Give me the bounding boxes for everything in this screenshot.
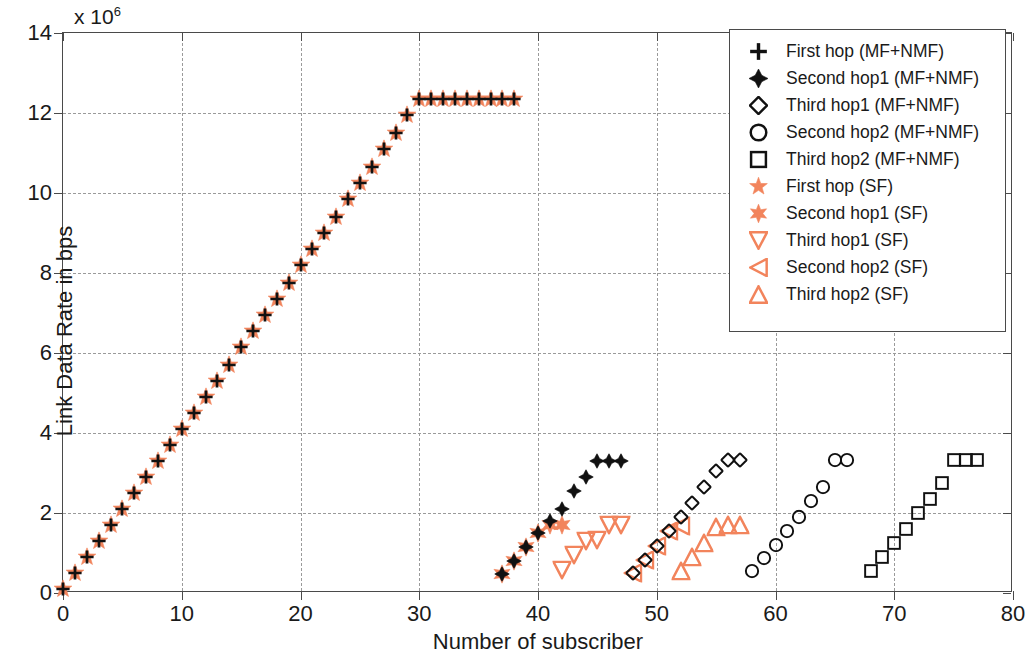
data-point-plus <box>471 92 486 111</box>
data-point-plus <box>210 374 225 393</box>
gridline-vertical <box>419 33 420 591</box>
data-point-diamond <box>697 480 712 499</box>
legend-label: Third hop1 (SF) <box>786 230 909 251</box>
legend-item[interactable]: Third hop1 (SF) <box>730 227 1005 254</box>
data-point-plus <box>127 486 142 505</box>
data-point-star6 <box>517 538 536 561</box>
data-point-tri-down <box>564 546 583 569</box>
data-point-square <box>970 452 985 471</box>
data-point-plus <box>400 108 415 127</box>
legend-label: Second hop2 (SF) <box>786 257 928 278</box>
data-point-tri-down <box>612 516 631 539</box>
data-point-plus <box>305 242 320 261</box>
x-tick-top <box>1013 33 1014 41</box>
x-tick-label: 10 <box>170 601 194 627</box>
x-tick-top <box>63 33 64 41</box>
data-point-star5 <box>255 306 274 329</box>
data-point-star5 <box>77 548 96 571</box>
data-point-square <box>958 452 973 471</box>
legend-label: First hop (SF) <box>786 176 893 197</box>
data-point-circle <box>839 452 854 471</box>
gridline-horizontal <box>63 433 1011 434</box>
gridline-vertical <box>657 33 658 591</box>
y-tick-label: 8 <box>40 260 52 286</box>
data-point-diamond <box>732 452 747 471</box>
data-point-tri-left <box>659 522 678 545</box>
gridline-horizontal <box>63 353 1011 354</box>
data-point-tri-down <box>576 532 595 555</box>
x-tick-top <box>657 33 658 41</box>
data-point-star5 <box>137 468 156 491</box>
legend: First hop (MF+NMF)Second hop1 (MF+NMF)Th… <box>729 29 1006 332</box>
x-axis-title: Number of subscriber <box>63 629 1013 653</box>
data-point-plus <box>139 470 154 489</box>
data-point-star5 <box>101 516 120 539</box>
legend-label: Third hop2 (MF+NMF) <box>786 149 960 170</box>
legend-marker-fourstar-icon <box>730 69 786 88</box>
chart-root: x 106 0246810121401020304050607080 Numbe… <box>0 0 1028 653</box>
data-point-plus <box>151 454 166 473</box>
legend-marker-star6-icon <box>730 204 786 223</box>
data-point-plus <box>459 92 474 111</box>
data-point-tri-up <box>683 548 702 571</box>
data-point-diamond <box>626 566 641 585</box>
y-tick-label: 14 <box>28 20 52 46</box>
data-point-plus <box>281 276 296 295</box>
legend-marker-tri-left-icon <box>730 258 786 277</box>
x-tick <box>182 591 183 600</box>
gridline-vertical <box>301 33 302 591</box>
data-point-star5 <box>220 356 239 379</box>
data-point-star5 <box>303 240 322 263</box>
data-point-star5 <box>362 158 381 181</box>
data-point-square <box>922 492 937 511</box>
data-point-star5 <box>232 338 251 361</box>
x-tick <box>657 591 658 600</box>
x-tick-top <box>538 33 539 41</box>
data-point-star5 <box>315 224 334 247</box>
legend-item[interactable]: Second hop1 (MF+NMF) <box>730 65 1005 92</box>
data-point-plus <box>269 292 284 311</box>
y-tick-right <box>1003 433 1011 434</box>
data-point-plus <box>436 92 451 111</box>
data-point-fourstar <box>602 454 617 473</box>
legend-item[interactable]: First hop (SF) <box>730 173 1005 200</box>
data-point-star6 <box>540 516 559 539</box>
legend-label: Third hop1 (MF+NMF) <box>786 95 960 116</box>
data-point-plus <box>352 176 367 195</box>
legend-item[interactable]: Second hop2 (MF+NMF) <box>730 119 1005 146</box>
data-point-plus <box>103 518 118 537</box>
x-tick-label: 40 <box>526 601 550 627</box>
data-point-diamond <box>661 524 676 543</box>
data-point-star5 <box>422 90 441 113</box>
legend-item[interactable]: First hop (MF+NMF) <box>730 38 1005 65</box>
legend-item[interactable]: Second hop2 (SF) <box>730 254 1005 281</box>
data-point-star5 <box>125 484 144 507</box>
y-tick-right <box>1003 353 1011 354</box>
x-tick <box>776 591 777 600</box>
data-point-star5 <box>493 90 512 113</box>
data-point-plus <box>447 92 462 111</box>
data-point-tri-up <box>671 562 690 585</box>
data-point-plus <box>186 406 201 425</box>
gridline-vertical <box>182 33 183 591</box>
data-point-plus <box>79 550 94 569</box>
data-point-star5 <box>434 90 453 113</box>
y-axis-exponent: x 106 <box>74 4 121 29</box>
legend-item[interactable]: Third hop1 (MF+NMF) <box>730 92 1005 119</box>
data-point-circle <box>827 452 842 471</box>
data-point-tri-up <box>695 534 714 557</box>
data-point-tri-left <box>635 550 654 573</box>
data-point-square <box>899 522 914 541</box>
x-tick-label: 50 <box>645 601 669 627</box>
data-point-star5 <box>481 90 500 113</box>
legend-marker-tri-up-icon <box>730 285 786 304</box>
data-point-star5 <box>196 388 215 411</box>
x-tick <box>538 591 539 600</box>
data-point-diamond <box>721 452 736 471</box>
data-point-tri-left <box>624 564 643 587</box>
legend-label: Second hop1 (MF+NMF) <box>786 68 979 89</box>
legend-item[interactable]: Third hop2 (MF+NMF) <box>730 146 1005 173</box>
legend-item[interactable]: Second hop1 (SF) <box>730 200 1005 227</box>
legend-item[interactable]: Third hop2 (SF) <box>730 281 1005 308</box>
data-point-fourstar <box>519 540 534 559</box>
